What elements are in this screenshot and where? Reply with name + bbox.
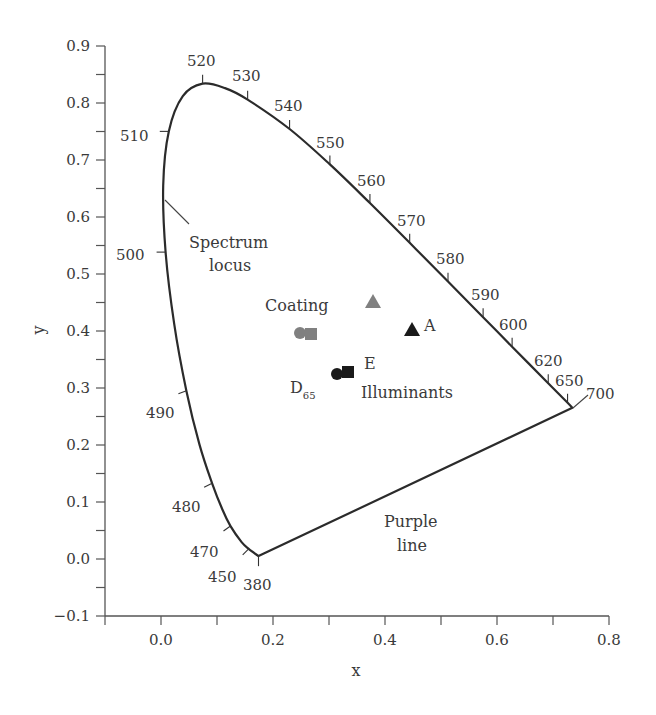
wl-label-500: 500 xyxy=(116,246,145,264)
wl-label-550: 550 xyxy=(316,134,345,152)
y-tick-label: 0.6 xyxy=(66,208,90,226)
illuminant-d65-label: D65 xyxy=(290,378,316,401)
coating-label: Coating xyxy=(265,296,329,315)
y-tick-label: 0.7 xyxy=(66,151,90,169)
purple-line-label: Purple xyxy=(384,512,438,531)
wl-label-700: 700 xyxy=(586,385,615,403)
y-tick-label: 0.4 xyxy=(66,322,90,340)
wavelength-labels: 380 450 470 480 490 500 510 520 530 540 … xyxy=(116,52,615,594)
wl-label-480: 480 xyxy=(172,498,201,516)
wl-label-620: 620 xyxy=(534,352,563,370)
wl-label-380: 380 xyxy=(243,576,272,594)
wl-label-540: 540 xyxy=(274,97,303,115)
wavelength-tick-490 xyxy=(178,391,186,394)
wavelength-tick-450 xyxy=(243,549,249,555)
y-tick-label: 0.1 xyxy=(66,493,90,511)
spectrum-locus-label: Spectrum xyxy=(189,233,268,252)
illuminant-a-label: A xyxy=(423,316,436,335)
y-tick-label: 0.2 xyxy=(66,436,90,454)
illuminants-label: Illuminants xyxy=(361,383,453,402)
wl-label-450: 450 xyxy=(208,568,237,586)
coating-circle-marker xyxy=(294,327,306,339)
illuminant-d-subscript: 65 xyxy=(303,390,316,401)
y-tick-label: 0.9 xyxy=(66,37,90,55)
illuminant-e-square-marker xyxy=(342,366,354,378)
wl-label-530: 530 xyxy=(232,67,261,85)
x-tick-labels: 0.00.20.40.60.8 xyxy=(149,631,621,649)
y-tick-label: 0.8 xyxy=(66,94,90,112)
wl-label-470: 470 xyxy=(190,543,219,561)
y-axis-title: y xyxy=(29,325,48,335)
wl-label-580: 580 xyxy=(436,250,465,268)
spectrum-locus-label-2: locus xyxy=(209,256,251,275)
wl-label-650: 650 xyxy=(555,372,584,390)
x-tick-label: 0.6 xyxy=(485,631,509,649)
y-tick-label: 0.5 xyxy=(66,265,90,283)
wavelength-tick-470 xyxy=(223,526,230,531)
y-tick-labels: −0.10.00.10.20.30.40.50.60.70.80.9 xyxy=(54,37,90,625)
x-tick-label: 0.0 xyxy=(149,631,173,649)
x-ticks xyxy=(105,616,609,625)
wl-label-490: 490 xyxy=(146,404,175,422)
wl-label-560: 560 xyxy=(357,172,386,190)
y-tick-label: 0.0 xyxy=(66,550,90,568)
wl-label-510: 510 xyxy=(120,127,149,145)
illuminant-d-letter: D xyxy=(290,378,303,397)
y-tick-label: 0.3 xyxy=(66,379,90,397)
chromaticity-chart: −0.10.00.10.20.30.40.50.60.70.80.9 0.00.… xyxy=(0,0,656,715)
wl-label-600: 600 xyxy=(499,316,528,334)
y-ticks xyxy=(96,46,105,616)
illuminant-e-label: E xyxy=(364,354,376,373)
x-tick-label: 0.4 xyxy=(373,631,397,649)
coating-triangle-marker xyxy=(365,294,381,308)
spectrum-locus-leader xyxy=(165,200,189,224)
x-tick-label: 0.8 xyxy=(597,631,621,649)
x-tick-label: 0.2 xyxy=(261,631,285,649)
wl-label-570: 570 xyxy=(397,212,426,230)
illuminant-a-triangle-marker xyxy=(404,322,420,336)
wavelength-tick-480 xyxy=(204,483,212,487)
wl-label-520: 520 xyxy=(187,52,216,70)
purple-line-label-2: line xyxy=(397,536,427,555)
y-tick-label: −0.1 xyxy=(54,607,90,625)
illuminant-d65-circle-marker xyxy=(331,368,343,380)
wl-label-590: 590 xyxy=(471,286,500,304)
x-axis-title: x xyxy=(351,661,360,680)
coating-square-marker xyxy=(305,328,317,340)
